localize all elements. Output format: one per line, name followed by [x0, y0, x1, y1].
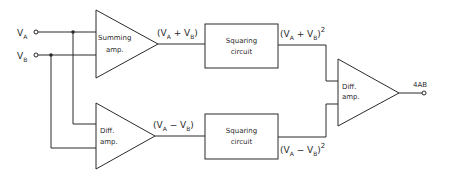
- squaring-block: [205, 24, 278, 68]
- input-wires: [38, 30, 96, 148]
- va-terminal-icon: [34, 30, 38, 34]
- sum-squared-label: (VA + VB)2: [280, 26, 325, 41]
- amplifier-triangle-icon: [96, 10, 158, 78]
- output-terminal-icon: [422, 91, 426, 95]
- diff-amp-output: Diff. amp.: [338, 59, 399, 126]
- summing-amp-label-2: amp.: [106, 46, 124, 54]
- squared-wires: [278, 45, 338, 137]
- squaring-lower-label: Squaring: [226, 127, 257, 135]
- diff-amp-lower-label-2: amp.: [100, 138, 118, 146]
- vb-label: VB: [17, 51, 27, 63]
- diff-amp-lower: Diff. amp.: [96, 103, 155, 169]
- diff-amp-output-label-2: amp.: [342, 93, 360, 101]
- diff-squared-label: (VA − VB)2: [280, 142, 325, 157]
- vb-terminal-icon: [34, 53, 38, 57]
- va-label: VA: [17, 28, 28, 40]
- block-diagram: VA VB Summing amp. Diff. amp. (VA + VB) …: [0, 0, 452, 177]
- amplifier-triangle-icon: [96, 103, 155, 169]
- diff-amp-lower-label: Diff.: [100, 127, 114, 135]
- diff-signal-label: (VA − VB): [153, 120, 194, 132]
- squaring-block: [205, 114, 278, 159]
- squaring-circuit-upper: Squaring circuit: [205, 24, 278, 68]
- summing-amp-label: Summing: [98, 34, 131, 42]
- input-vb: VB: [17, 51, 38, 63]
- squaring-lower-label-2: circuit: [231, 138, 253, 146]
- junction-dot-icon: [49, 53, 53, 57]
- input-va: VA: [17, 28, 38, 40]
- sum-signal-label: (VA + VB): [157, 28, 198, 40]
- output-label: 4AB: [413, 81, 427, 89]
- summing-amp: Summing amp.: [96, 10, 158, 78]
- squaring-circuit-lower: Squaring circuit: [205, 114, 278, 159]
- diff-amp-output-label: Diff.: [342, 83, 356, 91]
- junction-dot-icon: [71, 30, 75, 34]
- squaring-upper-label: Squaring: [226, 37, 257, 45]
- squaring-upper-label-2: circuit: [231, 48, 253, 56]
